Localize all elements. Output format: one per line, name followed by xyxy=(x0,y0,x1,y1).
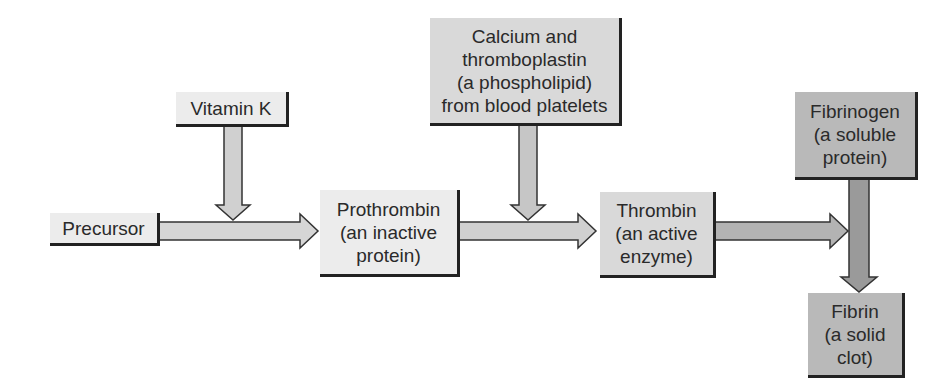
node-fibrinogen-line-3: protein) xyxy=(823,146,887,169)
node-thrombin-line-3: enzyme) xyxy=(620,245,693,268)
node-prothrombin-line-3: protein) xyxy=(356,244,420,267)
node-vitamin-k-line-1: Vitamin K xyxy=(191,97,272,120)
node-fibrin: Fibrin (a solid clot) xyxy=(808,293,905,378)
node-prothrombin-line-2: (an inactive xyxy=(340,221,437,244)
node-fibrinogen: Fibrinogen (a soluble protein) xyxy=(795,92,918,180)
node-fibrin-line-3: clot) xyxy=(837,346,873,369)
arrow-thrombin-to-fibrinogen xyxy=(715,214,848,248)
node-vitamin-k: Vitamin K xyxy=(176,92,289,127)
node-calcium-line-2: thromboplastin xyxy=(462,48,587,71)
node-fibrin-line-1: Fibrin xyxy=(831,300,879,323)
node-thrombin-line-1: Thrombin xyxy=(616,199,696,222)
node-calcium-line-3: (a phospholipid) xyxy=(457,71,592,94)
node-fibrinogen-line-2: (a soluble xyxy=(814,123,896,146)
arrow-precursor-to-prothrombin xyxy=(157,214,318,248)
arrow-fibrinogen-to-fibrin xyxy=(841,178,877,292)
node-fibrin-line-2: (a solid xyxy=(824,323,885,346)
node-thrombin: Thrombin (an active enzyme) xyxy=(600,192,716,278)
arrow-vitamin-k-down xyxy=(216,126,250,220)
node-calcium-thromboplastin: Calcium and thromboplastin (a phospholip… xyxy=(430,18,622,126)
node-prothrombin: Prothrombin (an inactive protein) xyxy=(320,190,460,277)
node-precursor: Precursor xyxy=(50,213,160,246)
node-calcium-line-1: Calcium and xyxy=(472,25,578,48)
node-thrombin-line-2: (an active xyxy=(615,222,697,245)
node-precursor-line-1: Precursor xyxy=(62,217,144,240)
node-prothrombin-line-1: Prothrombin xyxy=(337,198,441,221)
node-calcium-line-4: from blood platelets xyxy=(442,94,608,117)
arrow-calcium-down xyxy=(511,124,545,220)
node-fibrinogen-line-1: Fibrinogen xyxy=(810,100,900,123)
